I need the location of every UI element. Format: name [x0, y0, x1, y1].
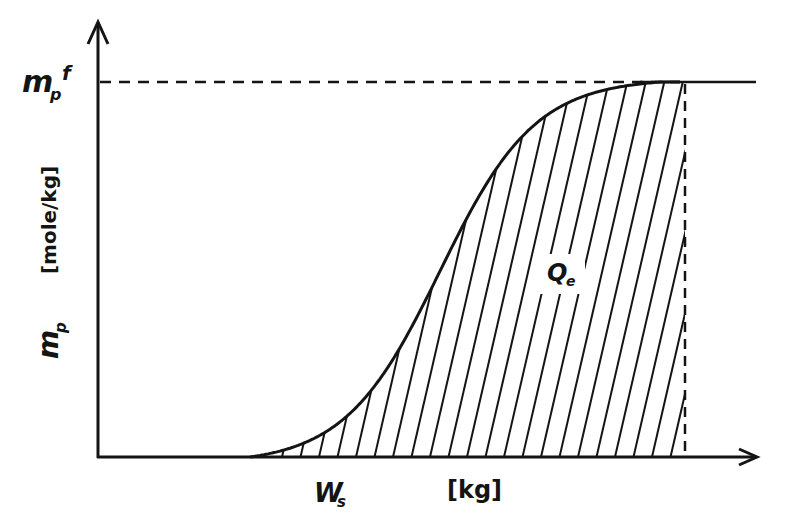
ws-marker-label: W s	[314, 478, 346, 511]
svg-text:s: s	[337, 493, 346, 511]
hatch-line	[615, 82, 701, 457]
x-axis-unit-label: [kg]	[447, 476, 502, 504]
y-axis-symbol-label: m p	[32, 322, 70, 359]
hatch-line	[430, 82, 516, 457]
mpf-superscript: f	[62, 61, 73, 85]
hatch-line	[634, 82, 720, 457]
y-axis-unit-label: [mole/kg]	[37, 166, 61, 274]
hatch-line	[412, 82, 498, 457]
hatch-line	[671, 82, 757, 457]
hatch-line	[393, 82, 479, 457]
hatch-line	[578, 82, 664, 457]
hatch-line	[282, 82, 368, 457]
hatch-line	[301, 82, 387, 457]
hatch-line	[338, 82, 424, 457]
y-top-tick-label: m p f	[22, 61, 73, 104]
hatch-line	[652, 82, 738, 457]
hatch-line	[356, 82, 442, 457]
hatched-area-qe	[245, 82, 757, 457]
breakthrough-curve	[250, 82, 680, 457]
svg-text:[mole/kg]: [mole/kg]	[37, 166, 61, 274]
mpf-symbol: m	[22, 64, 53, 99]
svg-text:m: m	[32, 330, 65, 359]
hatch-line	[245, 82, 331, 457]
svg-text:e: e	[566, 273, 576, 289]
svg-text:p: p	[52, 322, 70, 334]
breakthrough-curve-diagram: m p f [mole/kg] m p W s [kg] Q e	[0, 0, 796, 531]
hatch-line	[597, 82, 683, 457]
hatch-line	[375, 82, 461, 457]
mpf-subscript: p	[49, 85, 61, 104]
svg-text:Q: Q	[547, 259, 567, 287]
hatch-line	[264, 82, 350, 457]
